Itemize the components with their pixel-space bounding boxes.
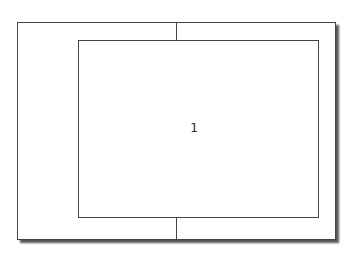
divider-line-top xyxy=(176,22,177,40)
inner-label: 1 xyxy=(190,120,198,135)
divider-line-bottom xyxy=(176,217,177,239)
inner-rectangle xyxy=(78,40,319,218)
